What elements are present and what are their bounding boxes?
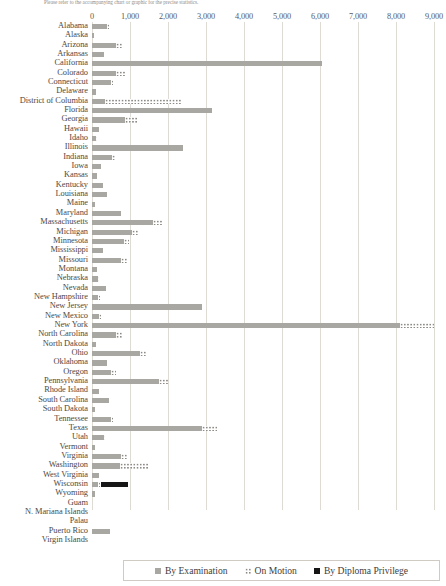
y-axis-category-label: Connecticut [48, 77, 88, 86]
chart-row: Washington [92, 461, 434, 470]
chart-row: Oregon [92, 368, 434, 377]
bar-segment-motion [116, 71, 126, 76]
bar-segment-motion [124, 239, 129, 244]
bar-chart: Please refer to the accompanying chart o… [0, 0, 446, 586]
chart-row: South Carolina [92, 396, 434, 405]
bar-segment-exam [92, 230, 132, 235]
bar-segment-motion [121, 454, 128, 459]
x-axis-tick-label: 9,000 [425, 12, 443, 21]
chart-row: Kentucky [92, 181, 434, 190]
bar-segment-motion [98, 295, 101, 300]
chart-row: New Mexico [92, 312, 434, 321]
bar-segment-exam [92, 61, 322, 66]
y-axis-category-label: Arizona [61, 40, 88, 49]
chart-row: N. Mariana Islands [92, 508, 434, 517]
y-axis-category-label: Washington [49, 460, 88, 469]
y-axis-category-label: Alabama [58, 21, 88, 30]
legend-item-motion[interactable]: On Motion [245, 565, 297, 576]
y-axis-category-label: Delaware [56, 86, 88, 95]
y-axis-category-label: Virgin Islands [42, 535, 88, 544]
plot-area: 01,0002,0003,0004,0005,0006,0007,0008,00… [92, 22, 434, 510]
y-axis-category-label: North Dakota [43, 339, 88, 348]
chart-row: Virginia [92, 452, 434, 461]
y-axis-category-label: Nevada [63, 283, 88, 292]
y-axis-category-label: Palau [70, 516, 88, 525]
bar-segment-exam [92, 89, 96, 94]
bar-segment-exam [92, 43, 116, 48]
y-axis-category-label: Indiana [63, 152, 88, 161]
y-axis-category-label: Minnesota [53, 236, 88, 245]
chart-row: North Dakota [92, 340, 434, 349]
y-axis-category-label: South Dakota [43, 404, 88, 413]
bar-segment-exam [92, 211, 121, 216]
bar-segment-exam [92, 220, 153, 225]
x-axis-tick-label: 1,000 [121, 12, 139, 21]
bar-segment-exam [92, 407, 95, 412]
chart-row: West Virginia [92, 471, 434, 480]
bar-segment-exam [92, 389, 99, 394]
bar-segment-exam [92, 192, 107, 197]
bar-segment-exam [92, 286, 106, 291]
bar-segment-motion [116, 332, 122, 337]
y-axis-category-label: California [55, 58, 88, 67]
bar-segment-exam [92, 267, 97, 272]
y-axis-category-label: Maryland [56, 208, 88, 217]
bar-segment-exam [92, 491, 95, 496]
y-axis-category-label: Wisconsin [53, 479, 88, 488]
y-axis-category-label: Oklahoma [54, 357, 89, 366]
bar-segment-exam [92, 80, 111, 85]
bar-segment-exam [92, 173, 97, 178]
legend-swatch-motion-icon [245, 568, 251, 574]
bar-segment-motion [120, 463, 149, 468]
y-axis-category-label: New Mexico [45, 311, 88, 320]
legend-swatch-diploma-icon [314, 568, 320, 574]
chart-row: Vermont [92, 443, 434, 452]
chart-row: Georgia [92, 116, 434, 125]
chart-row: Maryland [92, 209, 434, 218]
y-axis-category-label: Vermont [60, 442, 89, 451]
chart-row: Texas [92, 424, 434, 433]
y-axis-category-label: Tennessee [54, 414, 88, 423]
y-axis-category-label: Montana [59, 264, 88, 273]
chart-row: District of Columbia [92, 97, 434, 106]
y-axis-category-label: West Virginia [43, 470, 88, 479]
legend-item-exam[interactable]: By Examination [155, 565, 228, 576]
chart-row: Florida [92, 106, 434, 115]
chart-row: Arizona [92, 41, 434, 50]
y-axis-category-label: Colorado [57, 68, 88, 77]
bar-segment-motion [99, 314, 101, 319]
y-axis-category-label: New York [54, 320, 88, 329]
bar-segment-motion [400, 323, 434, 328]
chart-row: Pennsylvania [92, 377, 434, 386]
y-axis-category-label: Idaho [69, 133, 88, 142]
bar-segment-exam [92, 239, 124, 244]
x-axis-tick-label: 3,000 [197, 12, 215, 21]
chart-row: California [92, 59, 434, 68]
bar-segment-diploma [101, 482, 128, 487]
chart-row: Indiana [92, 153, 434, 162]
chart-row: Wisconsin [92, 480, 434, 489]
bar-segment-exam [92, 379, 159, 384]
y-axis-category-label: Louisiana [55, 189, 88, 198]
legend-item-diploma[interactable]: By Diploma Privilege [314, 565, 408, 576]
chart-row: North Carolina [92, 331, 434, 340]
y-axis-category-label: Georgia [62, 114, 88, 123]
chart-row: New York [92, 321, 434, 330]
y-axis-category-label: Iowa [71, 161, 88, 170]
y-axis-category-label: Alaska [65, 30, 88, 39]
chart-row: Kansas [92, 172, 434, 181]
bar-segment-exam [92, 248, 103, 253]
y-axis-category-label: Guam [68, 498, 88, 507]
y-axis-category-label: Maine [67, 198, 88, 207]
bar-segment-exam [92, 529, 110, 534]
chart-row: Iowa [92, 162, 434, 171]
chart-row: Wyoming [92, 490, 434, 499]
bar-segment-exam [92, 463, 120, 468]
bar-segment-motion [96, 136, 98, 141]
y-axis-category-label: Missouri [59, 255, 88, 264]
chart-row: Alabama [92, 22, 434, 31]
bar-segment-motion [140, 351, 148, 356]
y-axis-category-label: Michigan [56, 227, 88, 236]
x-axis-tick-label: 7,000 [349, 12, 367, 21]
chart-row: South Dakota [92, 405, 434, 414]
